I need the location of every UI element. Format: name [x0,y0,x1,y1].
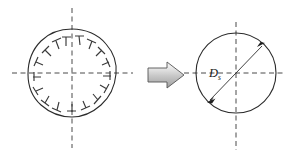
left-deformed-hole-group [12,8,133,148]
roughness-tick [100,84,109,93]
roughness-tick [42,46,51,56]
roughness-tick [52,102,61,112]
roughness-tick [103,71,111,80]
roughness-tick [67,104,76,112]
diameter-label: D [208,66,218,80]
roughness-tick [81,101,90,110]
roughness-tick-group [33,36,111,112]
roughness-tick [93,94,101,104]
roughness-tick [96,47,105,56]
right-nominal-hole-group: D s [184,22,285,150]
roughness-tick [52,38,61,49]
roughness-tick [33,87,43,95]
roughness-tick [102,58,110,67]
figure-canvas: D s [0,0,287,156]
roughness-tick [75,36,84,45]
roughness-tick [87,39,96,49]
diameter-label-subscript: s [218,73,221,82]
diagram-svg: D s [0,0,287,156]
roughness-tick [34,57,43,66]
roughness-tick [62,37,71,46]
transform-block-arrow [148,62,184,88]
roughness-tick [41,96,49,106]
block-arrow-shape [148,62,184,88]
